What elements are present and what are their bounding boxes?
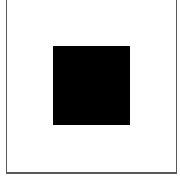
- black-square: [53, 46, 130, 125]
